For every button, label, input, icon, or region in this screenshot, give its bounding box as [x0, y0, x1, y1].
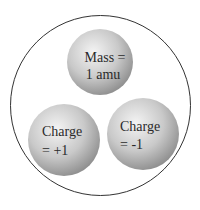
positive-label-line2: = +1	[42, 143, 68, 158]
mass-label-line1: Mass =	[85, 50, 126, 65]
particle-diagram: Mass = 1 amu Charge = +1 Charge = -1	[0, 0, 200, 210]
particle-positive: Charge = +1	[28, 104, 100, 176]
particle-mass: Mass = 1 amu	[67, 29, 133, 95]
sphere-negative	[107, 98, 179, 170]
positive-label-line1: Charge	[42, 124, 82, 139]
particle-negative: Charge = -1	[107, 98, 179, 170]
sphere-positive	[28, 104, 100, 176]
negative-label-line2: = -1	[120, 137, 143, 152]
negative-label-line1: Charge	[120, 119, 160, 134]
mass-label-line2: 1 amu	[86, 67, 121, 82]
